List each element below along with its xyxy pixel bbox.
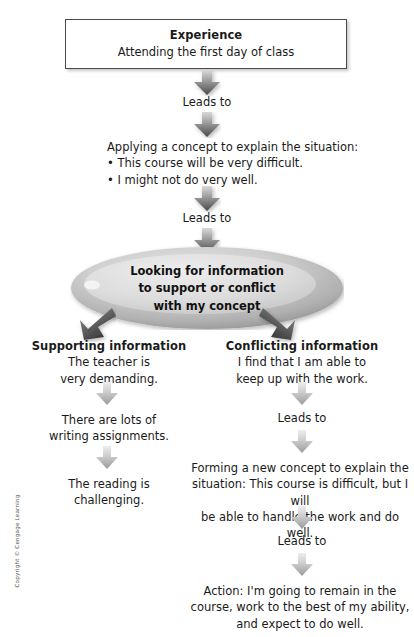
experience-box: Experience Attending the first day of cl… (65, 19, 347, 69)
arrow-down-right-3 (290, 506, 314, 530)
arrow-down-right-4 (290, 553, 314, 577)
supporting-item-1-line-1: The teacher is (18, 354, 200, 370)
copyright-notice: Copyright © Cengage Learning (14, 476, 20, 606)
arrow-diagonal-left (76, 306, 116, 342)
arrow-down-right-2 (290, 430, 314, 454)
arrow-down-left-1 (95, 382, 119, 406)
experience-heading: Experience (170, 27, 243, 44)
ellipse-line-3: with my concept (154, 298, 261, 315)
supporting-item-3: The reading is challenging. (18, 476, 200, 509)
supporting-information-group: Supporting information The teacher is ve… (18, 338, 200, 387)
action-line-1: Action: I'm going to remain in the (186, 583, 414, 599)
leads-to-label-2: Leads to (157, 211, 257, 225)
supporting-item-2-line-2: writing assignments. (18, 428, 200, 444)
arrow-down-3 (193, 186, 221, 212)
ellipse-line-2: to support or conflict (138, 280, 275, 297)
experience-subtext: Attending the first day of class (118, 44, 295, 61)
arrow-diagonal-right (259, 306, 299, 342)
action-block: Action: I'm going to remain in the cours… (186, 583, 414, 632)
ellipse-line-1: Looking for information (130, 263, 284, 280)
supporting-item-2-line-1: There are lots of (18, 412, 200, 428)
leads-to-label-4: Leads to (252, 534, 352, 548)
conflicting-information-group: Conflicting information I find that I am… (205, 338, 399, 387)
leads-to-label-3: Leads to (252, 411, 352, 425)
arrow-down-right-1 (290, 382, 314, 406)
arrow-down-2 (193, 112, 221, 138)
applying-concept-block: Applying a concept to explain the situat… (107, 139, 377, 188)
conflicting-information-heading: Conflicting information (205, 338, 399, 354)
supporting-information-heading: Supporting information (18, 338, 200, 354)
supporting-item-3-line-2: challenging. (18, 492, 200, 508)
action-line-2: course, work to the best of my ability, (186, 599, 414, 615)
arrow-down-left-2 (95, 446, 119, 470)
supporting-item-2: There are lots of writing assignments. (18, 412, 200, 445)
applying-concept-line-1: Applying a concept to explain the situat… (107, 139, 377, 155)
applying-concept-bullet-2: • I might not do very well. (107, 172, 377, 188)
leads-to-label-1: Leads to (157, 95, 257, 109)
action-line-3: and expect to do well. (186, 616, 414, 632)
forming-line-2: situation: This course is difficult, but… (186, 476, 414, 509)
applying-concept-bullet-1: • This course will be very difficult. (107, 155, 377, 171)
conflicting-item-1-line-1: I find that I am able to (205, 354, 399, 370)
forming-line-1: Forming a new concept to explain the (186, 460, 414, 476)
arrow-down-1 (193, 70, 221, 96)
supporting-item-3-line-1: The reading is (18, 476, 200, 492)
flowchart-diagram: Experience Attending the first day of cl… (0, 0, 414, 637)
